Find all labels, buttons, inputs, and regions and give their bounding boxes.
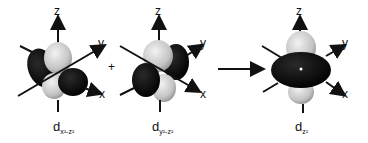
axis-label-y: y	[342, 37, 348, 49]
orbital-dz2	[262, 22, 340, 113]
axis-label-z: z	[296, 5, 302, 17]
orbital-label-dx2-z2: dx²-z²	[53, 120, 74, 135]
orbital-dy2-z2	[120, 22, 198, 112]
axis-label-x: x	[99, 88, 105, 100]
axis-label-x: x	[200, 88, 206, 100]
orbital-label-dz2: dz²	[295, 120, 308, 135]
axis-label-y: y	[98, 37, 104, 49]
axis-label-z: z	[155, 5, 161, 17]
axis-label-y: y	[200, 37, 206, 49]
orbital-label-dy2-z2: dy²-z²	[152, 120, 173, 135]
orbital-dx2-z2	[18, 22, 100, 112]
axis-label-x: x	[342, 88, 348, 100]
plus-operator: +	[108, 60, 115, 74]
axis-label-z: z	[54, 5, 60, 17]
